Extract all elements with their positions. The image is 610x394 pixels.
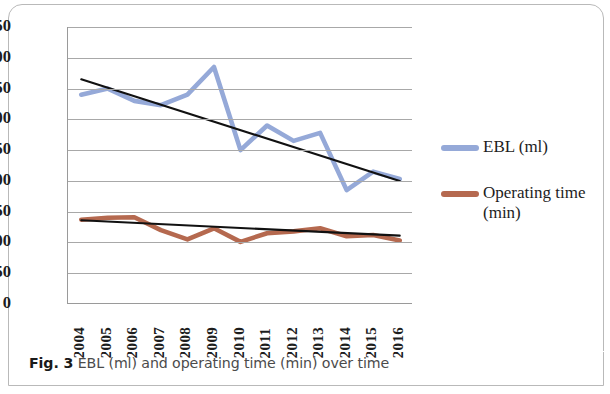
x-axis-tick-label: 2015 [364,327,379,358]
gridline [68,27,412,28]
legend-swatch-operating-time [441,191,479,197]
y-axis-tick-label: 300 [0,110,11,127]
y-axis-tick-label: 200 [0,172,11,189]
gridline [68,273,412,274]
legend-entry: Operating time (min) [441,183,601,223]
series-svg [68,27,413,304]
x-axis-tick-label: 2010 [232,327,247,358]
y-axis-tick-label: 150 [0,203,11,220]
chart-legend: EBL (ml)Operating time (min) [441,137,601,249]
x-axis-tick-label: 2009 [205,327,220,358]
y-axis-tick-label: 100 [0,233,11,250]
gridline [68,212,412,213]
x-axis-tick-label: 2012 [285,327,300,358]
caption-divider [17,351,610,352]
legend-swatch-ebl [441,145,479,151]
x-axis-tick-label: 2016 [391,327,406,358]
x-axis-tick-label: 2006 [125,327,140,358]
legend-label: EBL (ml) [483,137,548,157]
gridline [68,242,412,243]
y-axis-tick-label: 50 [0,264,11,281]
series-line [81,67,399,190]
gridline [68,150,412,151]
gridline [68,58,412,59]
y-axis-tick-label: 450 [0,18,11,35]
gridline [68,119,412,120]
series-line [81,217,399,242]
gridline [68,181,412,182]
chart-region: 050100150200250300350400450 200420052006… [9,5,605,345]
trendline [81,79,399,181]
x-axis-tick-label: 2013 [311,327,326,358]
x-axis-tick-label: 2004 [72,327,87,358]
x-axis-tick-label: 2007 [152,327,167,358]
plot-area [67,27,412,304]
gridline [68,89,412,90]
legend-entry: EBL (ml) [441,137,601,157]
x-axis-tick-label: 2008 [178,327,193,358]
y-axis-tick-label: 350 [0,80,11,97]
y-axis-tick-label: 400 [0,49,11,66]
x-axis-tick-label: 2005 [99,327,114,358]
figure-caption-label: Fig. 3 [29,355,73,371]
y-axis-tick-label: 250 [0,141,11,158]
y-axis-tick-label: 0 [0,295,11,312]
figure-caption-text: EBL (ml) and operating time (min) over t… [78,355,389,371]
trendline [81,220,399,235]
x-axis-tick-label: 2014 [338,327,353,358]
figure-frame: 050100150200250300350400450 200420052006… [8,4,604,386]
x-axis-tick-label: 2011 [258,328,273,358]
figure-caption: Fig. 3 EBL (ml) and operating time (min)… [29,355,599,371]
legend-label: Operating time (min) [483,183,595,223]
